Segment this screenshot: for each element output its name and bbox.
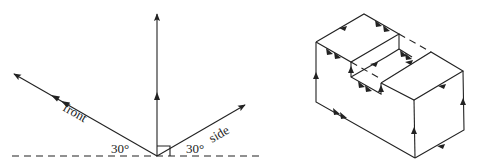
edge-arrow-icon bbox=[333, 108, 340, 115]
diagram-canvas: front side 30° 30° bbox=[0, 0, 478, 168]
front-axis-arrow-icon-1 bbox=[51, 95, 60, 102]
left-face bbox=[316, 42, 415, 158]
vertical-axis-arrow-icon bbox=[154, 92, 160, 100]
edge-arrow-icon bbox=[370, 62, 378, 67]
edge-arrow-icon bbox=[411, 127, 417, 134]
edge-arrow-icon bbox=[348, 66, 354, 73]
right-block-top bbox=[381, 52, 463, 100]
angle-right-label: 30° bbox=[186, 141, 204, 156]
left-block-top bbox=[316, 14, 399, 62]
angle-left-label: 30° bbox=[111, 141, 129, 156]
right-face bbox=[415, 71, 464, 158]
edge-arrow-icon bbox=[378, 85, 384, 92]
notch-floor-back bbox=[351, 57, 386, 77]
notched-block-diagram bbox=[313, 14, 466, 158]
edge-arrow-icon bbox=[313, 72, 319, 79]
hidden-edge-top bbox=[399, 34, 431, 52]
notch-back-edge bbox=[386, 49, 399, 57]
edge-arrow-icon bbox=[460, 98, 466, 105]
axes-diagram: front side 30° 30° bbox=[12, 14, 262, 156]
front-label: front bbox=[61, 100, 91, 126]
edge-arrow-icon bbox=[340, 112, 347, 119]
